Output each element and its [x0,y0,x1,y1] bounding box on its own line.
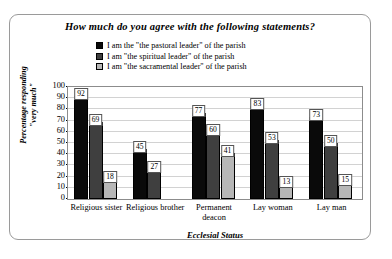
bar-group: 4527 [127,87,186,199]
bar: 83 [250,106,264,199]
bar: 13 [279,184,293,199]
bar: 45 [133,149,147,199]
x-label-4: Lay man [302,203,361,213]
legend-item-sacramental: I am "the sacramental leader" of the par… [96,62,247,72]
y-tick-10: 10 [40,183,65,191]
y-tick-20: 20 [40,172,65,180]
y-tick-100: 100 [40,82,65,90]
bar-value-label: 50 [324,135,338,147]
y-tick-50: 50 [40,138,65,146]
bar-value-label: 77 [192,105,206,117]
legend-swatch-pastoral [96,42,103,49]
y-tick-60: 60 [40,127,65,135]
bar: 41 [221,153,235,199]
x-axis-labels: Religious sisterReligious brotherPermane… [67,203,363,229]
bar: 92 [74,96,88,199]
chart-legend: I am the "the pastoral leader" of the pa… [96,41,247,73]
legend-item-spiritual: I am "the spiritual leader" of the paris… [96,52,247,62]
y-tick-70: 70 [40,116,65,124]
y-tick-30: 30 [40,160,65,168]
bar: 77 [192,113,206,199]
bar-value-label: 60 [206,124,220,136]
bar-value-label: 73 [309,109,323,121]
y-tick-90: 90 [40,93,65,101]
chart-frame: How much do you agree with the following… [9,14,371,240]
x-label-1: Religious brother [126,203,185,213]
bar-value-label: 69 [89,114,103,126]
bar-group: 776041 [186,87,245,199]
y-axis-title: Percentage responding "very much" [19,56,39,154]
y-axis-ticks: 0102030405060708090100 [40,79,65,207]
x-label-2: Permanent deacon [185,203,244,222]
x-label-0: Religious sister [67,203,126,213]
bar-group: 926918 [68,87,127,199]
legend-swatch-sacramental [96,63,103,70]
legend-swatch-spiritual [96,53,103,60]
legend-item-pastoral: I am the "the pastoral leader" of the pa… [96,41,247,51]
bar-value-label: 45 [133,141,147,153]
bar: 73 [309,117,323,199]
bar-value-label: 41 [221,145,235,157]
chart-title: How much do you agree with the following… [10,21,370,32]
bar: 27 [147,169,161,199]
bar: 60 [206,132,220,199]
bar-value-label: 27 [148,161,162,173]
plot-area: 9269184527776041835313735015 [67,86,363,200]
bar-value-label: 83 [251,98,265,110]
y-tick-40: 40 [40,149,65,157]
bar-group: 835313 [244,87,303,199]
bar-value-label: 92 [74,88,88,100]
y-tick-0: 0 [40,194,65,202]
bar: 69 [89,122,103,199]
bar: 15 [338,182,352,199]
legend-label-spiritual: I am "the spiritual leader" of the paris… [107,52,234,61]
legend-label-sacramental: I am "the sacramental leader" of the par… [107,62,247,71]
bar-value-label: 15 [338,174,352,186]
bar: 53 [265,140,279,199]
x-axis-title: Ecclesial Status [67,230,363,240]
bar-value-label: 53 [265,132,279,144]
y-tick-80: 80 [40,104,65,112]
x-label-3: Lay woman [243,203,302,213]
bar-value-label: 18 [103,171,117,183]
bar-value-label: 13 [280,176,294,188]
bar: 50 [324,143,338,199]
bar-group: 735015 [303,87,362,199]
legend-label-pastoral: I am the "the pastoral leader" of the pa… [107,41,246,50]
bar: 18 [103,179,117,199]
